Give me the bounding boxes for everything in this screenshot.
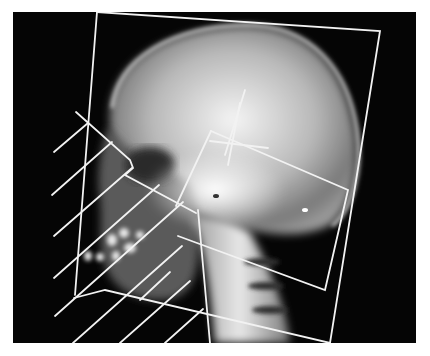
lower-frame-line xyxy=(74,290,330,343)
xray-image xyxy=(13,12,416,343)
mastoid-mark xyxy=(302,208,308,212)
xray-panel xyxy=(13,12,416,343)
ear-canal-mark xyxy=(213,194,219,198)
